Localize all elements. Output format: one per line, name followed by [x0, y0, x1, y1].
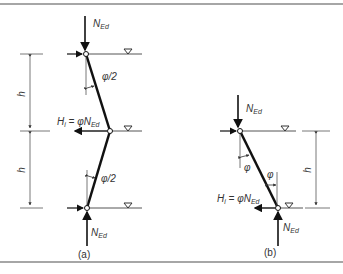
support-triangle-icon: [285, 203, 293, 208]
label-ned-top: NEd: [93, 18, 110, 30]
hinge-top: [238, 129, 243, 134]
hinge-bottom: [276, 206, 281, 211]
label-ned-bottom: NEd: [283, 222, 300, 234]
support-triangle-icon: [124, 126, 132, 131]
label-h-bottom: h: [16, 167, 27, 173]
support-triangle-icon: [124, 49, 132, 54]
support-triangle-icon: [124, 203, 132, 208]
column-member: [87, 131, 110, 208]
label-horizontal-force: Hi = φNEd: [217, 193, 261, 205]
panel-a: NEd φ/2 Hi = φNEd φ/2 NEd h h (a): [16, 16, 142, 260]
support-triangle-icon: [281, 126, 289, 131]
hinge-middle: [108, 129, 113, 134]
label-h: h: [302, 167, 313, 173]
caption-a: (a): [78, 249, 90, 260]
label-ned-top: NEd: [246, 103, 263, 115]
hinge-top: [84, 52, 89, 57]
imperfection-diagram: NEd φ/2 Hi = φNEd φ/2 NEd h h (a) NEd φ …: [0, 0, 343, 274]
label-h-top: h: [16, 91, 27, 97]
hinge-bottom: [85, 206, 90, 211]
label-angle-top: φ/2: [102, 71, 117, 82]
panel-b: NEd φ φ Hi = φNEd NEd h (b): [217, 95, 330, 258]
label-angle-bottom: φ: [267, 169, 274, 180]
label-angle-top: φ: [244, 162, 251, 173]
label-angle-bottom: φ/2: [101, 173, 116, 184]
label-horizontal-force: Hi = φNEd: [57, 116, 101, 128]
caption-b: (b): [264, 247, 276, 258]
label-ned-bottom: NEd: [91, 227, 108, 239]
